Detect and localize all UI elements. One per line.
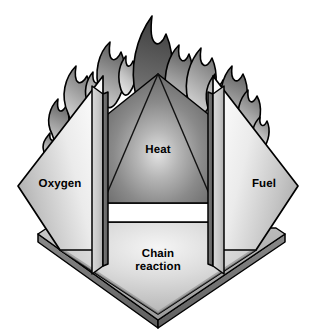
- left-post-face: [92, 86, 103, 274]
- left-post-side: [103, 92, 108, 266]
- left-support-post: [92, 86, 108, 274]
- fire-tetrahedron-graphic: [0, 0, 316, 335]
- white-gap-band: [103, 203, 215, 222]
- right-support-post: [208, 86, 224, 274]
- gap-band-rect: [103, 203, 215, 222]
- right-post-side: [213, 86, 224, 274]
- fire-tetrahedron-figure: Oxygen Fuel Heat Chain reaction: [0, 0, 316, 335]
- oxygen-face: [18, 76, 103, 250]
- oxygen-panel: [18, 76, 103, 250]
